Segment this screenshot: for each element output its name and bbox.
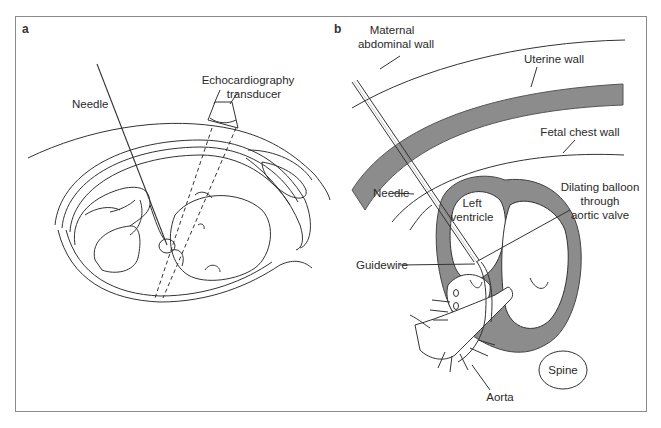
label-needle-b: Needle	[373, 187, 409, 200]
label-uterine-wall: Uterine wall	[524, 53, 584, 66]
panel-a-letter: a	[22, 22, 29, 36]
label-balloon-3: aortic valve	[571, 209, 629, 222]
label-aorta: Aorta	[486, 391, 514, 404]
label-spine: Spine	[548, 364, 577, 377]
label-echo-transducer-2: transducer	[227, 88, 281, 101]
label-left-ventricle-1: Left	[462, 197, 481, 210]
fetal-aortic-valvuloplasty-figure: a Needle Echocardiography transducer b M…	[0, 0, 661, 428]
label-guidewire: Guidewire	[356, 259, 408, 272]
panel-b-letter: b	[334, 22, 341, 36]
leader-maternal	[380, 56, 400, 69]
label-balloon-2: through	[580, 195, 619, 208]
label-fetal-chest-wall: Fetal chest wall	[540, 126, 619, 139]
label-left-ventricle-2: ventricle	[451, 211, 494, 224]
label-needle-a: Needle	[72, 98, 108, 111]
label-echo-transducer-1: Echocardiography	[202, 74, 295, 87]
label-maternal-1: Maternal	[370, 24, 415, 37]
label-balloon-1: Dilating balloon	[561, 181, 640, 194]
label-maternal-2: abdominal wall	[358, 38, 434, 51]
